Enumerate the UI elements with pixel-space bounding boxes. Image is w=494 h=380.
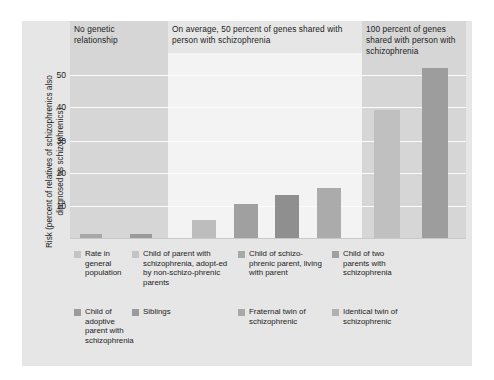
legend-swatch-icon [74, 251, 81, 258]
legend-item: Fraternal twin of schizophrenic [238, 307, 328, 326]
y-axis-title: Risk (percent of relatives of schizophre… [45, 62, 66, 262]
figure-root: No genetic relationship On average, 50 p… [0, 0, 494, 380]
gridline-20 [70, 173, 466, 174]
legend-label: Child of schizo-phrenic parent, living w… [249, 249, 328, 278]
legend-label: Fraternal twin of schizophrenic [249, 307, 328, 326]
bar-3 [234, 204, 258, 238]
legend-item: Child of schizo-phrenic parent, living w… [238, 249, 328, 278]
y-tick-20: 20 [44, 168, 66, 178]
y-tick-40: 40 [44, 102, 66, 112]
chart-panel: No genetic relationship On average, 50 p… [22, 21, 472, 366]
legend-label: Child of two parents with schizophrenia [343, 249, 412, 278]
column-header-fifty-percent: On average, 50 percent of genes shared w… [172, 24, 357, 46]
legend-label: Child of adoptive parent with schizophre… [85, 307, 134, 345]
legend-swatch-icon [132, 251, 139, 258]
legend-swatch-icon [132, 309, 139, 316]
legend-item: Child of adoptive parent with schizophre… [74, 307, 130, 345]
gridline-50 [70, 75, 466, 76]
legend-label: Siblings [143, 307, 171, 317]
bar-1 [130, 234, 152, 238]
bar-4 [275, 195, 299, 238]
legend-swatch-icon [238, 251, 245, 258]
legend-swatch-icon [332, 251, 339, 258]
legend-swatch-icon [74, 309, 81, 316]
bar-5 [317, 188, 341, 238]
legend-swatch-icon [238, 309, 245, 316]
y-tick-10: 10 [44, 201, 66, 211]
legend-item: Siblings [132, 307, 232, 317]
gridline-10 [70, 206, 466, 207]
legend-label: Child of parent with schizophrenia, adop… [143, 249, 232, 287]
column-header-hundred-percent: 100 percent of genes shared with person … [366, 24, 464, 58]
y-tick-30: 30 [44, 136, 66, 146]
bar-2 [192, 220, 216, 238]
legend-swatch-icon [332, 309, 339, 316]
legend-item: Identical twin of schizophrenic [332, 307, 412, 326]
gridline-30 [70, 141, 466, 142]
legend-label: Rate in general population [85, 249, 130, 278]
bar-6 [374, 110, 400, 238]
bar-7 [422, 68, 448, 238]
gridline-40 [70, 107, 466, 108]
y-tick-50: 50 [44, 70, 66, 80]
axis-baseline [70, 238, 466, 239]
legend: Rate in general populationChild of paren… [22, 249, 472, 361]
column-header-no-genetic: No genetic relationship [74, 24, 160, 46]
legend-item: Child of parent with schizophrenia, adop… [132, 249, 232, 287]
legend-item: Rate in general population [74, 249, 130, 278]
bar-0 [80, 234, 102, 238]
legend-label: Identical twin of schizophrenic [343, 307, 412, 326]
legend-item: Child of two parents with schizophrenia [332, 249, 412, 278]
